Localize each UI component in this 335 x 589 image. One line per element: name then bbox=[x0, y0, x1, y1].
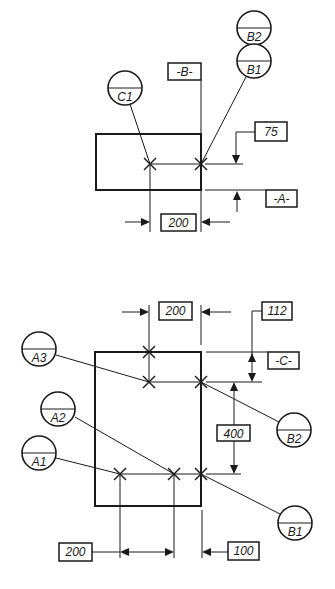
arrow-left-icon bbox=[202, 548, 211, 556]
arrow-right-icon bbox=[141, 218, 150, 226]
leader-75 bbox=[236, 132, 255, 156]
top-view: 75 -A- -B- 200 C1 B2 B1 bbox=[96, 11, 297, 232]
datum-target-a3: A3 bbox=[22, 332, 56, 366]
dim-200-label: 200 bbox=[164, 304, 185, 318]
dim-112-label: 112 bbox=[267, 304, 286, 318]
leader-b1 bbox=[201, 474, 280, 514]
arrow-down-icon bbox=[232, 155, 240, 164]
svg-text:B2: B2 bbox=[287, 432, 302, 446]
part-outline-bottom bbox=[95, 352, 201, 506]
svg-text:C1: C1 bbox=[117, 90, 132, 104]
arrow-left-icon bbox=[120, 548, 129, 556]
datum-target-b2: B2 bbox=[277, 413, 311, 447]
arrow-right-icon bbox=[140, 308, 149, 316]
datum-target-a2: A2 bbox=[41, 392, 75, 426]
datum-target-a1: A1 bbox=[22, 436, 56, 470]
datum-target-b2: B2 bbox=[237, 11, 271, 45]
arrow-left-icon bbox=[201, 218, 210, 226]
leader-112 bbox=[252, 311, 262, 374]
datum-b-label: -B- bbox=[177, 65, 193, 79]
datum-c-label: -C- bbox=[275, 354, 292, 368]
arrow-down-icon bbox=[230, 465, 238, 474]
arrow-up-icon bbox=[230, 382, 238, 391]
datum-target-c1: C1 bbox=[108, 71, 142, 105]
bottom-view: 200 112 -C- 400 bbox=[22, 302, 312, 561]
leader-a2 bbox=[75, 417, 174, 474]
svg-text:A3: A3 bbox=[31, 351, 47, 365]
datum-target-b1: B1 bbox=[237, 44, 271, 78]
leader-b1 bbox=[201, 75, 247, 164]
svg-text:A1: A1 bbox=[31, 455, 47, 469]
leader-a3 bbox=[56, 355, 149, 382]
datum-target-b1: B1 bbox=[278, 506, 312, 540]
dim-100-label: 100 bbox=[233, 544, 253, 558]
leader-a1 bbox=[56, 458, 120, 474]
arrow-right-icon bbox=[165, 548, 174, 556]
dim-200-label: 200 bbox=[167, 216, 188, 230]
datum-a-label: -A- bbox=[274, 192, 290, 206]
svg-text:B1: B1 bbox=[247, 63, 262, 77]
svg-text:B1: B1 bbox=[288, 525, 303, 539]
dim-75-label: 75 bbox=[264, 125, 278, 139]
arrow-down-icon bbox=[248, 373, 256, 382]
arrow-up-icon bbox=[248, 353, 256, 362]
arrow-up-icon bbox=[233, 191, 241, 200]
svg-text:B2: B2 bbox=[247, 30, 262, 44]
dim-400-label: 400 bbox=[223, 427, 243, 441]
datum-target-drawing: 75 -A- -B- 200 C1 B2 B1 bbox=[0, 0, 335, 589]
svg-text:A2: A2 bbox=[50, 411, 66, 425]
dim-200-label: 200 bbox=[64, 545, 85, 559]
arrow-left-icon bbox=[201, 308, 210, 316]
leader-b2 bbox=[201, 382, 279, 422]
